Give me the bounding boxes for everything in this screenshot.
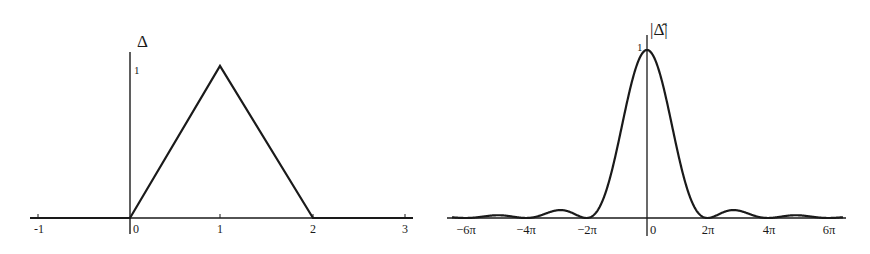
left-tick-label-neg1: -1 (34, 222, 44, 236)
right-y-axis-label: |Δ̂| (650, 20, 668, 39)
right-tick-label-0: 0 (650, 223, 656, 237)
left-tick-label-2: 2 (310, 222, 316, 236)
right-tick-label-neg2pi: −2π (577, 223, 597, 237)
left-y-axis-label: Δ (137, 32, 148, 51)
right-tick-label-2pi: 2π (702, 223, 715, 237)
left-triangle-curve (30, 66, 413, 218)
left-tick-label-0: 0 (133, 222, 139, 236)
right-tick-label-6pi: 6π (823, 223, 836, 237)
left-tick-label-3: 3 (402, 222, 408, 236)
right-tick-label-neg6pi: −6π (456, 223, 476, 237)
figure: -1 0 1 2 3 1 Δ −6π −4π −2π 0 2π 4π 6π 1 … (0, 0, 870, 254)
left-y-tick-label-1: 1 (134, 64, 140, 76)
right-tick-label-neg4pi: −4π (516, 223, 536, 237)
right-chart: −6π −4π −2π 0 2π 4π 6π 1 |Δ̂| (447, 20, 846, 237)
left-tick-label-1: 1 (217, 222, 223, 236)
right-tick-label-4pi: 4π (763, 223, 776, 237)
left-chart: -1 0 1 2 3 1 Δ (30, 32, 413, 236)
right-y-tick-label-1: 1 (637, 41, 643, 53)
